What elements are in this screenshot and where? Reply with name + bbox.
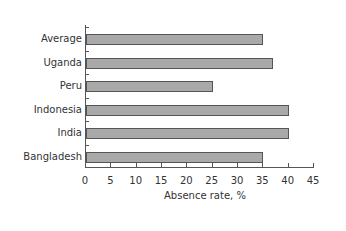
- x-tick-label: 20: [176, 175, 196, 186]
- category-label: Peru: [60, 80, 82, 92]
- bar: [86, 58, 273, 69]
- x-tick-label: 10: [126, 175, 146, 186]
- category-label: Uganda: [43, 57, 82, 69]
- y-tick: [86, 51, 89, 52]
- horizontal-bar-chart: AverageUgandaPeruIndonesiaIndiaBanglades…: [0, 0, 346, 231]
- category-label: Bangladesh: [23, 151, 82, 163]
- x-axis-title: Absence rate, %: [164, 190, 246, 201]
- y-tick: [86, 27, 89, 28]
- y-tick: [86, 74, 89, 75]
- x-tick-label: 25: [202, 175, 222, 186]
- x-tick: [237, 163, 238, 167]
- x-tick-label: 0: [75, 175, 95, 186]
- bar: [86, 128, 289, 139]
- x-tick-label: 30: [227, 175, 247, 186]
- bar: [86, 152, 263, 163]
- bar: [86, 34, 263, 45]
- bar: [86, 105, 289, 116]
- y-tick: [86, 145, 89, 146]
- x-tick: [161, 163, 162, 167]
- y-tick: [86, 98, 89, 99]
- x-tick-label: 35: [252, 175, 272, 186]
- x-tick-label: 15: [151, 175, 171, 186]
- x-tick: [288, 163, 289, 167]
- x-tick: [110, 163, 111, 167]
- bar: [86, 81, 213, 92]
- y-axis: [85, 25, 86, 168]
- category-label: Indonesia: [34, 104, 82, 116]
- category-label: India: [57, 127, 82, 139]
- x-tick-label: 45: [303, 175, 323, 186]
- y-tick: [86, 121, 89, 122]
- x-tick: [313, 163, 314, 167]
- x-tick: [136, 163, 137, 167]
- x-tick: [262, 163, 263, 167]
- x-tick: [186, 163, 187, 167]
- x-tick-label: 5: [100, 175, 120, 186]
- x-tick: [212, 163, 213, 167]
- x-axis: [85, 167, 314, 168]
- x-tick-label: 40: [278, 175, 298, 186]
- category-label: Average: [41, 33, 82, 45]
